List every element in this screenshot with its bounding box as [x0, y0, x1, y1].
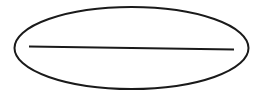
diagram-canvas — [0, 0, 265, 95]
horizontal-line — [29, 47, 234, 50]
